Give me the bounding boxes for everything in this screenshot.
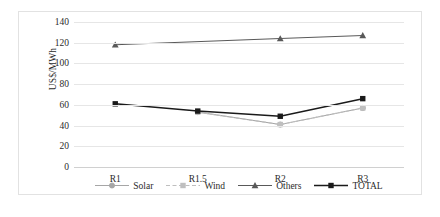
data-point-marker xyxy=(110,183,115,188)
gridline xyxy=(74,22,404,23)
gridline xyxy=(74,146,404,147)
y-tick-label: 40 xyxy=(60,121,70,131)
data-point-marker xyxy=(360,96,365,101)
legend-label: Solar xyxy=(133,181,153,191)
chart-frame: US$/MWh 140120100806040200R1R1.5R2R3 Sol… xyxy=(18,11,422,195)
chart-figure: US$/MWh 140120100806040200R1R1.5R2R3 Sol… xyxy=(0,0,440,217)
y-tick-label: 80 xyxy=(60,79,70,89)
legend-swatch-circle-icon xyxy=(95,180,129,191)
legend-item-solar[interactable]: Solar xyxy=(95,180,153,191)
gridline xyxy=(74,43,404,44)
data-point-marker xyxy=(181,183,186,188)
gridline xyxy=(74,105,404,106)
legend-label: Others xyxy=(276,181,301,191)
y-tick-label: 20 xyxy=(60,141,70,151)
legend-item-total[interactable]: TOTAL xyxy=(314,180,382,191)
chart-legend: SolarWindOthersTOTAL xyxy=(74,180,404,191)
plot-area: 140120100806040200R1R1.5R2R3 xyxy=(74,22,404,167)
y-tick-label: 60 xyxy=(60,100,70,110)
data-point-marker xyxy=(278,114,283,119)
legend-swatch-square-icon xyxy=(166,180,200,191)
gridline xyxy=(74,167,404,168)
legend-swatch-triangle-icon xyxy=(238,180,272,191)
series-line xyxy=(115,99,363,117)
data-point-marker xyxy=(195,108,200,113)
y-tick-label: 140 xyxy=(55,17,69,27)
legend-swatch-square-icon xyxy=(314,180,348,191)
legend-label: Wind xyxy=(204,181,225,191)
data-point-marker xyxy=(329,183,334,188)
y-tick-label: 0 xyxy=(64,162,69,172)
y-tick-label: 100 xyxy=(55,58,69,68)
y-axis-title: US$/MWh xyxy=(48,21,58,117)
y-tick-label: 120 xyxy=(55,38,69,48)
gridline xyxy=(74,126,404,127)
legend-item-wind[interactable]: Wind xyxy=(166,180,225,191)
gridline xyxy=(74,63,404,64)
legend-label: TOTAL xyxy=(352,181,382,191)
series-others xyxy=(112,32,366,47)
series-layer xyxy=(74,22,404,167)
legend-item-others[interactable]: Others xyxy=(238,180,301,191)
gridline xyxy=(74,84,404,85)
data-point-marker xyxy=(360,105,365,110)
